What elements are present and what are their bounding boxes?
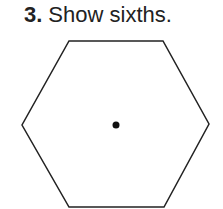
center-dot [113,122,120,129]
hexagon-figure [0,0,223,209]
